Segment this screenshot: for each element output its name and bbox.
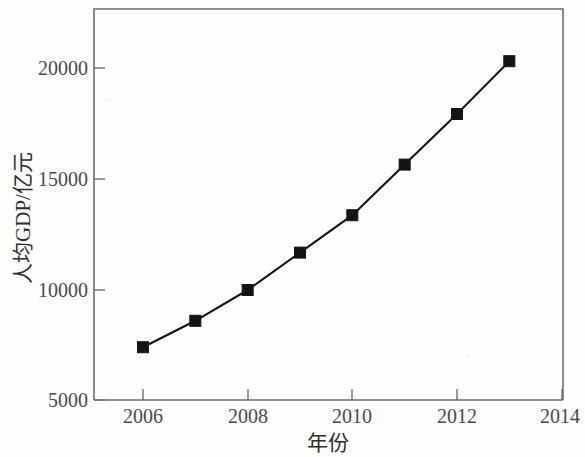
series-markers (138, 56, 515, 353)
x-tick-label-2008: 2008 (228, 405, 268, 427)
y-tick-label-15000: 15000 (38, 168, 88, 190)
y-axis-title: 人均GDP/亿元 (11, 152, 35, 284)
data-point-2006 (138, 342, 149, 353)
plot-box-outline (94, 9, 563, 400)
x-axis-tick-labels: 2006 2008 2010 2012 2014 (123, 405, 580, 427)
data-point-2008 (242, 285, 253, 296)
y-tick-label-20000: 20000 (38, 57, 88, 79)
y-axis-ticks (94, 68, 105, 400)
data-point-2007 (190, 315, 201, 326)
series-renju-gdp (138, 56, 515, 353)
x-tick-label-2010: 2010 (332, 405, 372, 427)
x-tick-label-2012: 2012 (437, 405, 477, 427)
x-axis-title: 年份 (307, 431, 349, 455)
data-point-2010 (347, 210, 358, 221)
chart-page: 20000 15000 10000 5000 2006 2008 2010 20… (0, 0, 585, 457)
data-point-2009 (295, 247, 306, 258)
y-tick-label-10000: 10000 (38, 279, 88, 301)
data-point-2011 (399, 159, 410, 170)
line-chart: 20000 15000 10000 5000 2006 2008 2010 20… (0, 0, 585, 457)
x-axis-ticks (143, 389, 562, 400)
x-tick-label-2006: 2006 (123, 405, 163, 427)
series-line (143, 61, 509, 347)
plot-frame (94, 9, 563, 400)
y-tick-label-5000: 5000 (48, 389, 88, 411)
data-point-2013 (504, 56, 515, 67)
x-tick-label-2014: 2014 (540, 405, 580, 427)
data-point-2012 (452, 109, 463, 120)
y-axis-tick-labels: 20000 15000 10000 5000 (38, 57, 88, 411)
